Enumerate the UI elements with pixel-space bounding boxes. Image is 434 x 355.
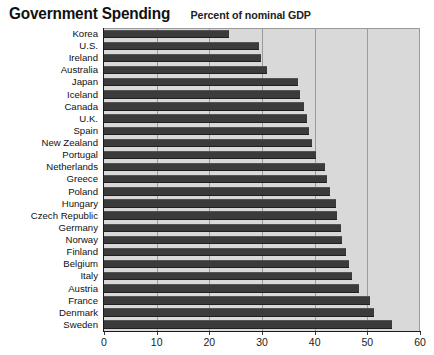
bar-denmark — [104, 308, 374, 316]
bar-row — [104, 186, 420, 198]
bar-italy — [104, 272, 352, 280]
category-label: France — [0, 295, 100, 307]
tick-mark-10 — [157, 332, 158, 335]
bar-poland — [104, 187, 330, 195]
category-label: Finland — [0, 246, 100, 258]
bar-row — [104, 137, 420, 149]
bar-france — [104, 296, 370, 304]
government-spending-bar-chart: Government Spending Percent of nominal G… — [0, 0, 434, 355]
x-tick-label: 30 — [256, 336, 268, 348]
bar-row — [104, 149, 420, 161]
bar-hungary — [104, 199, 336, 207]
bar-canada — [104, 102, 304, 110]
bar-u-k- — [104, 114, 307, 122]
bar-row — [104, 198, 420, 210]
bar-row — [104, 76, 420, 88]
category-label: Australia — [0, 64, 100, 76]
bar-row — [104, 210, 420, 222]
bar-row — [104, 295, 420, 307]
tick-mark-30 — [262, 332, 263, 335]
bars-layer — [104, 28, 420, 331]
bar-row — [104, 173, 420, 185]
bar-row — [104, 246, 420, 258]
bar-row — [104, 28, 420, 40]
bar-row — [104, 89, 420, 101]
bar-finland — [104, 248, 346, 256]
bar-australia — [104, 66, 267, 74]
category-label: Spain — [0, 125, 100, 137]
bar-greece — [104, 175, 327, 183]
page-title: Government Spending — [9, 4, 170, 23]
category-axis-labels: KoreaU.S.IrelandAustraliaJapanIcelandCan… — [0, 28, 100, 331]
bar-row — [104, 234, 420, 246]
category-label: U.S. — [0, 40, 100, 52]
category-label: Austria — [0, 283, 100, 295]
tick-mark-20 — [209, 332, 210, 335]
chart-subtitle: Percent of nominal GDP — [191, 9, 311, 21]
bar-korea — [104, 30, 229, 38]
tick-mark-40 — [315, 332, 316, 335]
bar-norway — [104, 236, 342, 244]
category-label: Ireland — [0, 52, 100, 64]
bar-spain — [104, 127, 309, 135]
category-label: Canada — [0, 101, 100, 113]
bar-row — [104, 161, 420, 173]
bar-portugal — [104, 151, 316, 159]
bar-row — [104, 64, 420, 76]
bar-belgium — [104, 260, 349, 268]
bar-japan — [104, 78, 298, 86]
category-label: Czech Republic — [0, 210, 100, 222]
category-label: Portugal — [0, 149, 100, 161]
x-tick-label: 40 — [309, 336, 321, 348]
y-axis-line — [103, 28, 104, 332]
category-label: Norway — [0, 234, 100, 246]
bar-u-s- — [104, 42, 259, 50]
bar-sweden — [104, 320, 392, 328]
chart-header: Government Spending Percent of nominal G… — [3, 4, 316, 23]
category-label: Italy — [0, 270, 100, 282]
bar-row — [104, 319, 420, 331]
category-label: U.K. — [0, 113, 100, 125]
bar-row — [104, 40, 420, 52]
category-label: Greece — [0, 173, 100, 185]
tick-mark-50 — [367, 332, 368, 335]
category-label: Hungary — [0, 198, 100, 210]
category-label: Poland — [0, 186, 100, 198]
bar-row — [104, 113, 420, 125]
x-tick-label: 60 — [414, 336, 426, 348]
category-label: Belgium — [0, 258, 100, 270]
tick-mark-0 — [104, 332, 105, 335]
bar-new-zealand — [104, 139, 312, 147]
category-label: Denmark — [0, 307, 100, 319]
bar-row — [104, 125, 420, 137]
bar-row — [104, 258, 420, 270]
x-tick-label: 20 — [203, 336, 215, 348]
bar-row — [104, 270, 420, 282]
bar-netherlands — [104, 163, 325, 171]
bar-row — [104, 283, 420, 295]
bar-ireland — [104, 54, 261, 62]
category-label: Netherlands — [0, 161, 100, 173]
bar-iceland — [104, 90, 300, 98]
x-tick-label: 10 — [151, 336, 163, 348]
bar-row — [104, 101, 420, 113]
x-axis-tick-labels: 0102030405060 — [0, 336, 434, 352]
category-label: Japan — [0, 76, 100, 88]
bar-czech-republic — [104, 211, 337, 219]
category-label: Korea — [0, 28, 100, 40]
bar-row — [104, 222, 420, 234]
bar-row — [104, 307, 420, 319]
category-label: Iceland — [0, 89, 100, 101]
bar-germany — [104, 224, 341, 232]
tick-mark-60 — [420, 332, 421, 335]
x-tick-label: 50 — [361, 336, 373, 348]
category-label: Sweden — [0, 319, 100, 331]
bar-row — [104, 52, 420, 64]
category-label: Germany — [0, 222, 100, 234]
x-tick-label: 0 — [101, 336, 107, 348]
category-label: New Zealand — [0, 137, 100, 149]
bar-austria — [104, 284, 359, 292]
